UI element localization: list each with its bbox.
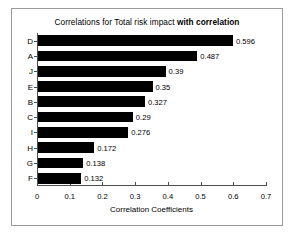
chart-title: Correlations for Total risk impact with …: [12, 17, 282, 27]
bar[interactable]: [38, 96, 145, 107]
bar[interactable]: [38, 142, 94, 153]
x-tick-label: 0.3: [130, 192, 141, 201]
bar-value-label: 0.487: [197, 51, 219, 60]
category-label: E: [28, 82, 33, 91]
category-label: G: [27, 159, 33, 168]
chart-title-emphasis: with correlation: [177, 17, 240, 27]
category-label: A: [28, 51, 33, 60]
category-label: D: [27, 36, 33, 45]
bar[interactable]: [38, 35, 233, 46]
bar[interactable]: [38, 127, 128, 138]
x-tick-label: 0.4: [163, 192, 174, 201]
bar-value-label: 0.596: [233, 36, 255, 45]
bar-row: E0.35: [38, 81, 266, 92]
bar-row: J0.39: [38, 66, 266, 77]
bar-value-label: 0.276: [128, 128, 150, 137]
x-tick-label: 0.2: [97, 192, 108, 201]
chart-container: Correlations for Total risk impact with …: [11, 8, 283, 226]
bar-row: B0.327: [38, 96, 266, 107]
bar-value-label: 0.327: [145, 97, 167, 106]
category-label: H: [27, 143, 33, 152]
bar-row: C0.29: [38, 112, 266, 123]
category-label: J: [29, 67, 33, 76]
category-label: B: [28, 97, 33, 106]
x-axis-title: Correlation Coefficients: [37, 205, 266, 214]
x-tick-label: 0: [35, 192, 39, 201]
plot-area: 00.10.20.30.40.50.60.7 D0.596A0.487J0.39…: [37, 33, 266, 186]
bar-row: H0.172: [38, 142, 266, 153]
x-tick-mark: [266, 182, 267, 186]
bar-value-label: 0.138: [83, 159, 105, 168]
bar-row: I0.276: [38, 127, 266, 138]
chart-title-plain: Correlations for Total risk impact: [55, 17, 177, 27]
bar-row: G0.138: [38, 158, 266, 169]
bar-row: F0.132: [38, 173, 266, 184]
bar[interactable]: [38, 158, 83, 169]
bar-row: A0.487: [38, 51, 266, 62]
bar-value-label: 0.29: [133, 113, 151, 122]
category-label: I: [31, 128, 33, 137]
bar-value-label: 0.172: [94, 143, 116, 152]
bar-value-label: 0.35: [153, 82, 171, 91]
bar-value-label: 0.39: [166, 67, 184, 76]
category-label: C: [27, 113, 33, 122]
category-label: F: [28, 174, 33, 183]
bar[interactable]: [38, 66, 166, 77]
bar-value-label: 0.132: [81, 174, 103, 183]
x-tick-label: 0.1: [64, 192, 75, 201]
x-tick-label: 0.7: [261, 192, 272, 201]
bar-row: D0.596: [38, 35, 266, 46]
x-tick-label: 0.5: [195, 192, 206, 201]
bar[interactable]: [38, 81, 153, 92]
x-tick-label: 0.6: [228, 192, 239, 201]
bar[interactable]: [38, 112, 133, 123]
bar[interactable]: [38, 173, 81, 184]
bar[interactable]: [38, 51, 197, 62]
x-axis-line: [37, 185, 266, 186]
